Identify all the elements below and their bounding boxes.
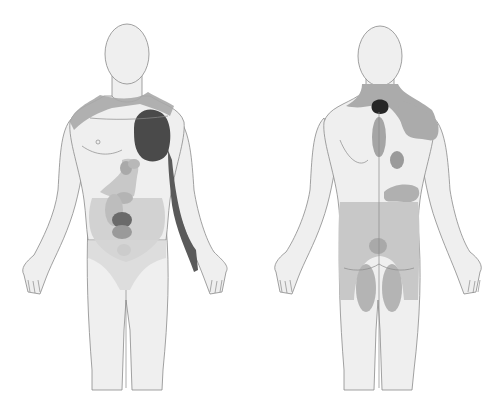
back-zone-buttock-left bbox=[356, 264, 376, 312]
posterior-figure bbox=[275, 26, 482, 390]
front-head bbox=[105, 24, 149, 84]
back-zone-sacral bbox=[369, 238, 387, 254]
back-zone-scapular-right bbox=[390, 151, 404, 169]
back-head bbox=[358, 26, 402, 86]
anterior-figure bbox=[23, 24, 227, 390]
back-zone-upper-dark bbox=[371, 100, 388, 115]
front-zone-epigastric-mid2 bbox=[128, 159, 140, 169]
front-zone-left-chest-dark bbox=[134, 109, 170, 161]
front-zone-suprapubic bbox=[112, 225, 132, 239]
back-zone-buttock-right bbox=[382, 264, 402, 312]
body-pain-diagram bbox=[0, 0, 504, 404]
